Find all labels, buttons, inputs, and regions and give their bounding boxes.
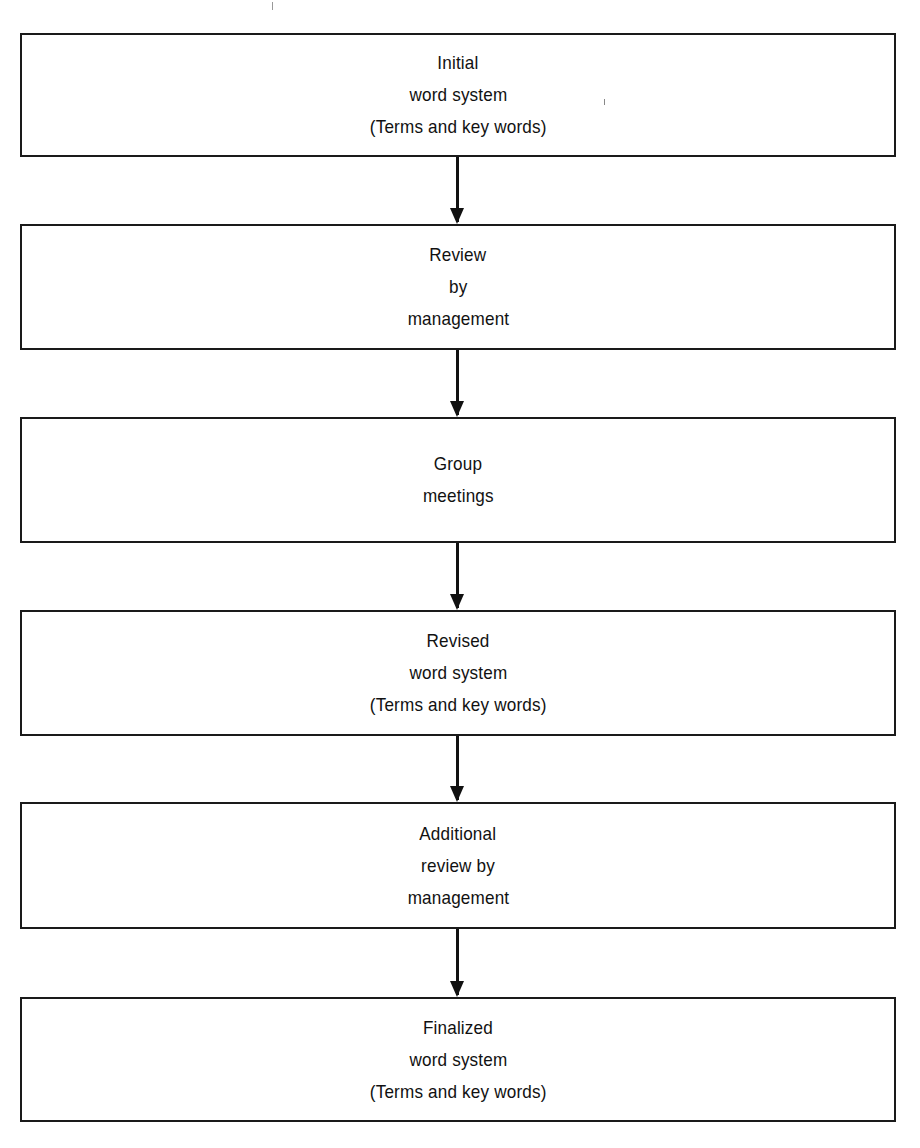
step-line: (Terms and key words) [370, 1076, 547, 1108]
scan-tick-mark [272, 2, 273, 10]
step-group-meetings: Group meetings [20, 417, 896, 543]
step-line: (Terms and key words) [370, 111, 547, 143]
step-line: by [449, 271, 467, 303]
step-line: management [407, 882, 509, 914]
step-line: Finalized [423, 1012, 493, 1044]
step-line: review by [421, 850, 495, 882]
step-line: Additional [420, 818, 497, 850]
step-line: Group [434, 448, 482, 480]
step-line: (Terms and key words) [370, 689, 547, 721]
arrow-down-icon [456, 929, 459, 995]
step-review-by-management: Review by management [20, 224, 896, 350]
step-line: meetings [423, 480, 494, 512]
step-initial-word-system: Initial word system (Terms and key words… [20, 33, 896, 157]
step-line: Revised [426, 625, 489, 657]
step-line: management [407, 303, 509, 335]
step-line: word system [409, 79, 507, 111]
stray-mark [604, 99, 605, 105]
arrow-down-icon [456, 350, 459, 415]
step-revised-word-system: Revised word system (Terms and key words… [20, 610, 896, 736]
step-line: Review [429, 239, 486, 271]
step-line: word system [409, 657, 507, 689]
arrow-down-icon [456, 543, 459, 608]
step-line: word system [409, 1044, 507, 1076]
arrow-down-icon [456, 736, 459, 800]
step-additional-review-by-management: Additional review by management [20, 802, 896, 929]
arrow-down-icon [456, 157, 459, 222]
step-finalized-word-system: Finalized word system (Terms and key wor… [20, 997, 896, 1122]
step-line: Initial [437, 47, 478, 79]
